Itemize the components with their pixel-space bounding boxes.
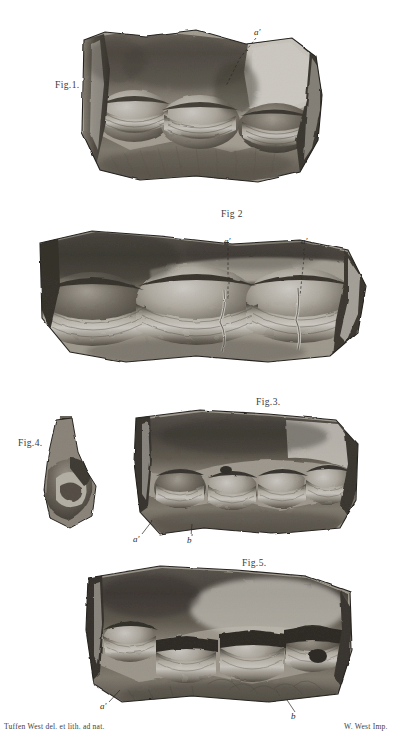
credit-printer: W. West Imp. — [344, 722, 388, 731]
ref-label-fig2-a2: a′ — [301, 236, 307, 246]
credit-artist: Tuffen West del. et lith. ad nat. — [4, 722, 105, 731]
figure-2-artwork — [36, 228, 370, 368]
plate-artwork — [0, 0, 399, 740]
figure-label-fig5: Fig.5. — [242, 558, 267, 568]
ref-label-fig1-a: a′ — [254, 27, 260, 37]
ref-label-fig5-a: a′ — [100, 701, 106, 711]
figure-label-fig4: Fig.4. — [18, 438, 43, 448]
lithograph-plate: Fig.1. Fig 2 Fig.3. Fig.4. Fig.5. a′ a′ … — [0, 0, 399, 740]
figure-4-artwork — [40, 414, 100, 534]
figure-label-fig3: Fig.3. — [256, 397, 281, 407]
figure-label-fig1: Fig.1. — [55, 80, 80, 90]
figure-5-artwork — [82, 562, 358, 712]
figure-1-artwork — [80, 28, 328, 186]
figure-3-artwork — [130, 406, 364, 538]
ref-label-fig5-b: b — [291, 711, 296, 721]
figure-label-fig2: Fig 2 — [221, 209, 243, 219]
ref-label-fig3-a: a′ — [133, 534, 139, 544]
ref-label-fig3-b: b — [187, 535, 192, 545]
ref-label-fig2-a1: a′ — [224, 236, 230, 246]
